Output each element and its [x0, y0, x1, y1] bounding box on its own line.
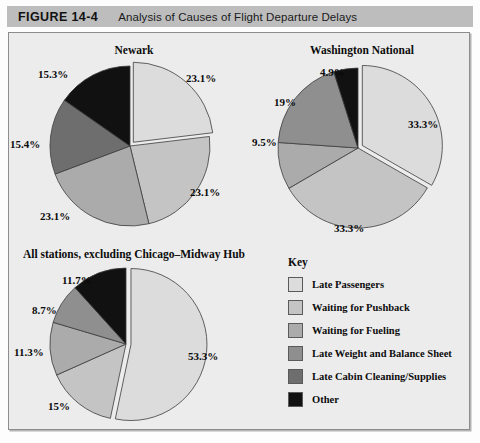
legend-item: Late Weight and Balance Sheet [288, 342, 468, 365]
legend-swatch [288, 323, 303, 338]
pie-washington [258, 60, 466, 240]
legend-item-label: Waiting for Fueling [312, 325, 400, 336]
pct-washington-weight-balance: 19% [274, 96, 296, 108]
legend-item: Late Passengers [288, 273, 468, 296]
legend-swatch [288, 369, 303, 384]
chart-title-allstations: All stations, excluding Chicago–Midway H… [18, 248, 250, 260]
pct-newark-cabin-cleaning: 15.4% [10, 138, 40, 150]
chart-title-washington: Washington National [258, 44, 466, 56]
pie-svg-washington [258, 60, 466, 240]
chart-panel-washington: Washington National 33.3% 33.3% 9.5% 19%… [258, 44, 466, 244]
pct-allstations-other: 11.7% [62, 274, 92, 286]
pct-newark-other: 15.3% [38, 68, 68, 80]
legend-swatch [288, 392, 303, 407]
chart-panel-newark: Newark 23.1% 23.1% 23.1% 15.4% 15.3% [18, 44, 250, 244]
pct-newark-pushback: 23.1% [190, 186, 220, 198]
chart-title-newark: Newark [18, 44, 250, 56]
legend-item-label: Waiting for Pushback [312, 302, 410, 313]
legend-item-label: Late Passengers [312, 279, 384, 290]
legend-swatch [288, 300, 303, 315]
legend-item-label: Other [312, 394, 339, 405]
pct-allstations-fueling: 11.3% [14, 346, 44, 358]
pct-washington-late-passengers: 33.3% [408, 118, 438, 130]
pct-newark-fueling: 23.1% [40, 210, 70, 222]
legend-item: Other [288, 388, 468, 411]
figure-root: FIGURE 14-4 Analysis of Causes of Flight… [0, 0, 480, 443]
figure-number: FIGURE 14-4 [18, 10, 98, 24]
pct-newark-late-passengers: 23.1% [186, 72, 216, 84]
legend-item: Waiting for Fueling [288, 319, 468, 342]
legend: Key Late PassengersWaiting for PushbackW… [288, 256, 468, 411]
legend-swatch [288, 346, 303, 361]
legend-item-label: Late Weight and Balance Sheet [312, 348, 452, 359]
legend-item-label: Late Cabin Cleaning/Supplies [312, 371, 446, 382]
pct-allstations-pushback: 15% [48, 400, 70, 412]
legend-title: Key [288, 256, 468, 268]
pie-slice [115, 269, 207, 421]
legend-item: Late Cabin Cleaning/Supplies [288, 365, 468, 388]
pct-washington-other: 4.9% [320, 66, 345, 78]
figure-caption: Analysis of Causes of Flight Departure D… [118, 11, 357, 23]
figure-header-bar: FIGURE 14-4 Analysis of Causes of Flight… [7, 6, 473, 27]
legend-item: Waiting for Pushback [288, 296, 468, 319]
pct-washington-fueling: 9.5% [252, 136, 277, 148]
chart-panel-allstations: All stations, excluding Chicago–Midway H… [18, 248, 250, 434]
pct-allstations-weight-balance: 8.7% [32, 304, 57, 316]
legend-swatch [288, 277, 303, 292]
pct-washington-pushback: 33.3% [334, 222, 364, 234]
pct-allstations-late-passengers: 53.3% [188, 350, 218, 362]
